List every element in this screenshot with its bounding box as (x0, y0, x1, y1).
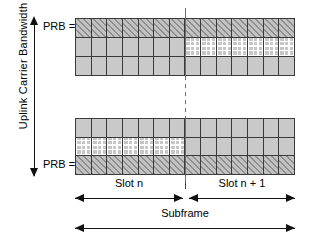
subframe-measure: Subframe (75, 222, 295, 236)
resource-cell-plain (232, 138, 248, 156)
resource-cell-plain (248, 57, 264, 75)
resource-cell-hatch (217, 156, 233, 174)
resource-cell-hatch (248, 19, 264, 37)
resource-cell-plain (107, 57, 123, 75)
resource-cell-plain (139, 119, 155, 137)
resource-cell-plain (123, 38, 139, 56)
resource-cell-plain (76, 57, 92, 75)
resource-cell-plain (264, 119, 280, 137)
resource-cell-plain (139, 38, 155, 56)
slot-n-arrow-right-icon (174, 194, 183, 202)
resource-cell-cross (123, 138, 139, 156)
resource-cell-hatch (76, 19, 92, 37)
resource-cell-plain (123, 57, 139, 75)
resource-cell-cross (76, 138, 92, 156)
resource-cell-plain (123, 119, 139, 137)
resource-cell-hatch (170, 19, 186, 37)
resource-cell-hatch (154, 19, 170, 37)
resource-cell-hatch (185, 156, 201, 174)
resource-cell-cross (201, 38, 217, 56)
resource-cell-hatch (264, 156, 280, 174)
resource-cell-plain (154, 38, 170, 56)
resource-cell-cross (279, 38, 294, 56)
resource-cell-hatch (76, 156, 92, 174)
resource-cell-cross (264, 38, 280, 56)
resource-cell-hatch (123, 19, 139, 37)
resource-cell-plain (92, 57, 108, 75)
resource-cell-plain (170, 119, 186, 137)
resource-cell-hatch (264, 19, 280, 37)
resource-cell-plain (185, 57, 201, 75)
resource-cell-cross (154, 138, 170, 156)
resource-cell-hatch (139, 156, 155, 174)
slot-boundary-tick (185, 182, 186, 189)
resource-cell-hatch (232, 19, 248, 37)
resource-cell-plain (279, 119, 294, 137)
resource-cell-hatch (201, 19, 217, 37)
resource-cell-plain (264, 138, 280, 156)
slot-n-plus-1-label: Slot n + 1 (189, 177, 295, 189)
resource-cell-hatch (107, 156, 123, 174)
subframe-line (75, 228, 295, 229)
resource-cell-hatch (279, 156, 294, 174)
slot-n-label: Slot n (75, 177, 183, 189)
resource-cell-plain (92, 119, 108, 137)
resource-cell-hatch (139, 19, 155, 37)
resource-cell-plain (217, 138, 233, 156)
resource-cell-plain (170, 38, 186, 56)
resource-cell-cross (92, 138, 108, 156)
resource-cell-plain (107, 38, 123, 56)
y-axis-label: Uplink Carrier Bandwidth (17, 0, 29, 141)
resource-cell-plain (248, 138, 264, 156)
resource-cell-hatch (279, 19, 294, 37)
resource-cell-cross (139, 138, 155, 156)
resource-cell-plain (185, 138, 201, 156)
resource-cell-plain (264, 57, 280, 75)
resource-cell-cross (107, 138, 123, 156)
resource-cell-cross (232, 38, 248, 56)
slot-divider-top-stub (185, 8, 186, 18)
y-axis-arrow-down-icon (30, 168, 38, 177)
slot-n-plus-1-measure: Slot n + 1 (189, 192, 295, 206)
slot-divider-through-bottom-grid (185, 118, 186, 175)
resource-cell-hatch (248, 156, 264, 174)
resource-cell-plain (92, 38, 108, 56)
resource-cell-hatch (123, 156, 139, 174)
y-axis-line (34, 24, 35, 176)
resource-cell-cross (185, 38, 201, 56)
resource-cell-hatch (107, 19, 123, 37)
slot-divider-through-top-grid (185, 18, 186, 76)
resource-cell-plain (232, 119, 248, 137)
resource-cell-plain (76, 38, 92, 56)
resource-cell-plain (139, 57, 155, 75)
slot-n-plus-1-arrow-right-icon (286, 194, 295, 202)
resource-cell-hatch (92, 19, 108, 37)
resource-cell-hatch (201, 156, 217, 174)
resource-cell-cross (170, 138, 186, 156)
subframe-arrow-right-icon (286, 224, 295, 232)
resource-cell-plain (217, 57, 233, 75)
resource-cell-plain (201, 138, 217, 156)
resource-cell-hatch (92, 156, 108, 174)
resource-cell-plain (154, 119, 170, 137)
slot-n-line (75, 198, 183, 199)
resource-cell-cross (217, 38, 233, 56)
resource-cell-cross (248, 38, 264, 56)
resource-cell-plain (201, 57, 217, 75)
resource-cell-plain (248, 119, 264, 137)
resource-cell-hatch (232, 156, 248, 174)
resource-cell-plain (76, 119, 92, 137)
resource-cell-plain (185, 119, 201, 137)
resource-cell-plain (232, 57, 248, 75)
resource-cell-hatch (185, 19, 201, 37)
slot-n-plus-1-line (189, 198, 295, 199)
diagram-canvas: Uplink Carrier Bandwidth PRB = n PRB = 0… (0, 0, 318, 250)
slot-divider-dashed (185, 76, 186, 118)
resource-cell-hatch (154, 156, 170, 174)
resource-cell-plain (201, 119, 217, 137)
resource-cell-plain (217, 119, 233, 137)
resource-cell-plain (107, 119, 123, 137)
slot-n-measure: Slot n (75, 192, 183, 206)
resource-cell-hatch (217, 19, 233, 37)
resource-cell-plain (279, 138, 294, 156)
